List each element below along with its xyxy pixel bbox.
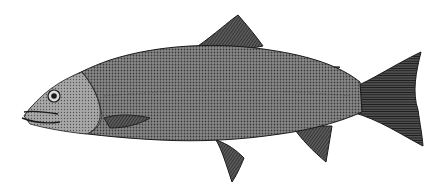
anal-fin: [294, 126, 332, 162]
illustration-canvas: [0, 0, 446, 196]
pelvic-fin: [216, 140, 244, 182]
tail-fin: [352, 52, 423, 146]
dorsal-fin: [198, 15, 263, 49]
pupil: [51, 93, 57, 99]
trout-illustration: [0, 0, 446, 196]
